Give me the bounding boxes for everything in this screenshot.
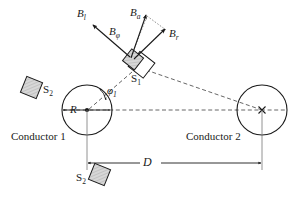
label-s1-sub: 1 (137, 78, 141, 87)
label-s2-bottom: S2 (76, 172, 86, 186)
label-separation-d: D (143, 156, 152, 168)
construction-lines (63, 70, 286, 110)
label-phi1: φ1 (107, 85, 117, 99)
label-b-axial-sub: a (137, 12, 141, 21)
label-b-total: Bl (77, 8, 86, 22)
label-b-radial: Br (169, 28, 179, 42)
label-s2-left: S2 (43, 84, 53, 98)
conductor-2-group (237, 85, 287, 170)
label-phi1-sub: 1 (113, 90, 117, 99)
label-s2-bottom-sub: 2 (82, 177, 86, 186)
label-b-total-base: B (77, 7, 84, 19)
vector-b-radial-arrow (134, 29, 165, 59)
dashed-line-s1-to-conductor2 (146, 70, 262, 110)
diagram-canvas (0, 0, 301, 202)
label-s1: S1 (131, 73, 141, 87)
label-b-phi-sub: φ (116, 31, 120, 40)
conductor-1-group (62, 85, 112, 170)
label-radius-r: R (70, 104, 77, 115)
label-b-phi: Bφ (109, 26, 120, 40)
sensor-s2-left-square (20, 76, 42, 98)
sensor-s2-bottom-square (88, 163, 110, 185)
label-conductor-2: Conductor 2 (186, 131, 241, 142)
parallelogram-edge-right (147, 16, 166, 30)
vector-b-axial-arrow (131, 15, 146, 58)
label-b-radial-sub: r (176, 33, 179, 42)
label-b-axial: Ba (130, 7, 140, 21)
vector-parallelogram-construction (131, 16, 166, 57)
label-s2-left-sub: 2 (49, 89, 53, 98)
label-b-total-sub: l (84, 13, 86, 22)
label-conductor-1: Conductor 1 (11, 131, 66, 142)
label-b-phi-base: B (109, 25, 116, 37)
label-b-axial-base: B (130, 6, 137, 18)
physics-diagram-figure: Bl Bφ Ba Br S1 S2 S2 R φ1 D Conductor 1 … (0, 0, 301, 202)
label-b-radial-base: B (169, 27, 176, 39)
